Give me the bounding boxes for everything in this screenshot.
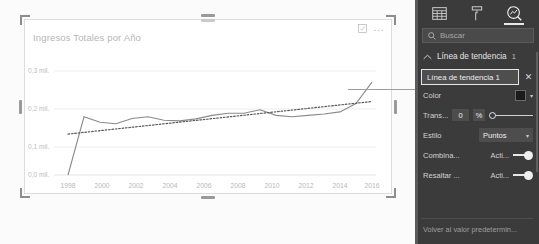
- x-tick-label: 2000: [94, 182, 109, 189]
- x-tick-label: 2010: [264, 182, 279, 189]
- search-input[interactable]: [440, 31, 539, 40]
- x-tick-label: 1998: [60, 182, 75, 189]
- toggle-knob[interactable]: [524, 151, 533, 160]
- y-tick-label: 0,0 mil.: [28, 171, 49, 178]
- panel-left-edge: [415, 0, 418, 244]
- panel-scrollbar[interactable]: [536, 52, 538, 172]
- highlight-toggle[interactable]: [513, 171, 533, 179]
- color-property-row[interactable]: Color ▾: [415, 85, 539, 105]
- search-icon: [428, 32, 436, 40]
- slider-track: [493, 115, 533, 116]
- resize-handle-middle-right[interactable]: [394, 100, 397, 114]
- color-label: Color: [423, 91, 441, 100]
- style-dropdown[interactable]: Puntos ▾: [479, 128, 533, 142]
- report-canvas[interactable]: Ingresos Totales por Año ...: [0, 0, 415, 244]
- x-tick-label: 2014: [332, 182, 347, 189]
- transparency-unit: %: [473, 109, 485, 121]
- format-tab[interactable]: [464, 2, 490, 25]
- trendline-dotted: [68, 102, 372, 135]
- trendline-name-value: Línea de tendencia 1: [427, 73, 500, 82]
- resize-handle-top-right[interactable]: [386, 15, 396, 25]
- transparency-label: Trans...: [423, 111, 448, 120]
- style-value: Puntos: [483, 131, 507, 140]
- search-box[interactable]: [422, 28, 534, 43]
- x-tick-label: 2004: [162, 182, 177, 189]
- x-tick-label: 2012: [298, 182, 313, 189]
- chart-plot-area: 0,3 mil. 0,2 mil. 0,1 mil. 0,0 mil. 1998…: [24, 49, 392, 194]
- resize-handle-top-left[interactable]: [20, 15, 30, 25]
- combine-property-row[interactable]: Combina... Acti...: [415, 145, 539, 165]
- x-tick-label: 2016: [364, 182, 379, 189]
- analytics-tab[interactable]: [501, 2, 527, 25]
- data-series-line: [68, 82, 372, 175]
- line-chart-visual[interactable]: Ingresos Totales por Año ...: [24, 19, 392, 194]
- visual-title: Ingresos Totales por Año: [33, 32, 141, 43]
- transparency-property-row[interactable]: Trans... 0 %: [415, 105, 539, 125]
- combine-toggle[interactable]: [513, 151, 533, 159]
- x-tick-label: 2002: [128, 182, 143, 189]
- power-bi-report-screen: Ingresos Totales por Año ...: [0, 0, 539, 244]
- resize-handle-bottom-center[interactable]: [201, 196, 215, 199]
- y-tick-label: 0,1 mil.: [28, 143, 49, 150]
- chart-y-axis: 0,3 mil. 0,2 mil. 0,1 mil. 0,0 mil.: [28, 67, 49, 178]
- trendline-section-header[interactable]: Línea de tendencia 1: [415, 48, 539, 65]
- chevron-up-icon[interactable]: [423, 54, 432, 60]
- reset-to-default-link[interactable]: Volver al valor predetermin...: [423, 225, 517, 234]
- trendline-section-title: Línea de tendencia: [437, 52, 507, 61]
- delete-trendline-button[interactable]: ✕: [522, 72, 535, 82]
- paint-roller-icon: [470, 6, 484, 21]
- color-swatch[interactable]: [515, 90, 526, 101]
- slider-knob[interactable]: [489, 112, 496, 119]
- resize-handle-top-center-secondary[interactable]: [201, 19, 215, 22]
- transparency-slider[interactable]: [489, 109, 533, 121]
- trendline-name-row: Línea de tendencia 1 ✕: [421, 69, 535, 85]
- chevron-down-icon: ▾: [526, 132, 529, 139]
- focus-mode-icon[interactable]: [358, 24, 367, 33]
- x-tick-label: 2006: [196, 182, 211, 189]
- style-property-row[interactable]: Estilo Puntos ▾: [415, 125, 539, 145]
- highlight-label: Resaltar ...: [423, 171, 460, 180]
- resize-handle-middle-left[interactable]: [19, 100, 22, 114]
- panel-divider: [421, 218, 533, 219]
- transparency-value[interactable]: 0: [452, 109, 469, 121]
- highlight-state-label: Acti...: [491, 171, 509, 180]
- fields-grid-icon: [432, 7, 447, 20]
- visual-header-icons: ...: [358, 24, 384, 33]
- highlight-property-row[interactable]: Resaltar ... Acti...: [415, 165, 539, 185]
- y-tick-label: 0,3 mil.: [28, 67, 49, 74]
- callout-leader-line: [348, 89, 420, 90]
- panel-tabs: [415, 0, 539, 25]
- trendline-section-count: 1: [512, 52, 516, 61]
- trendline-name-input[interactable]: Línea de tendencia 1: [421, 69, 519, 85]
- style-label: Estilo: [423, 131, 442, 140]
- chart-svg: 0,3 mil. 0,2 mil. 0,1 mil. 0,0 mil. 1998…: [24, 49, 392, 194]
- x-tick-label: 2008: [230, 182, 245, 189]
- combine-label: Combina...: [423, 151, 460, 160]
- chart-x-axis: 1998 2000 2002 2004 2006 2008 2010 2012 …: [60, 182, 379, 189]
- chevron-down-icon[interactable]: ▾: [530, 92, 533, 99]
- resize-handle-top-center[interactable]: [201, 14, 215, 17]
- toggle-knob[interactable]: [524, 171, 533, 180]
- y-tick-label: 0,2 mil.: [28, 105, 49, 112]
- combine-state-label: Acti...: [491, 151, 509, 160]
- more-options-icon[interactable]: ...: [373, 22, 384, 33]
- visualizations-analytics-panel[interactable]: Línea de tendencia 1 Línea de tendencia …: [415, 0, 539, 244]
- fields-tab[interactable]: [427, 2, 453, 25]
- analytics-magnifier-icon: [507, 6, 522, 21]
